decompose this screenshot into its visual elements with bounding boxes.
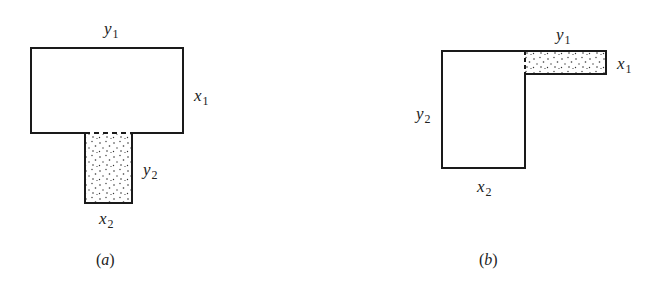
- shaded-stem-a: [85, 134, 132, 203]
- label-x2-a: x2: [98, 209, 114, 231]
- label-y1-b: y1: [554, 25, 571, 47]
- label-x1-b: x1: [616, 54, 632, 76]
- label-x2-b: x2: [476, 177, 492, 199]
- shaded-flange-b: [525, 52, 605, 73]
- panel-b: y1 x1 y2 x2 (b): [414, 25, 632, 269]
- label-y2-a: y2: [141, 160, 158, 182]
- caption-a: (a): [96, 251, 115, 269]
- label-y1-a: y1: [102, 19, 119, 41]
- panel-a: y1 x1 y2 x2 (a): [31, 19, 209, 269]
- figure-canvas: y1 x1 y2 x2 (a) y1 x1 y2 x2 (b): [0, 0, 666, 283]
- label-y2-b: y2: [414, 104, 431, 126]
- caption-b: (b): [479, 251, 498, 269]
- label-x1-a: x1: [193, 86, 209, 108]
